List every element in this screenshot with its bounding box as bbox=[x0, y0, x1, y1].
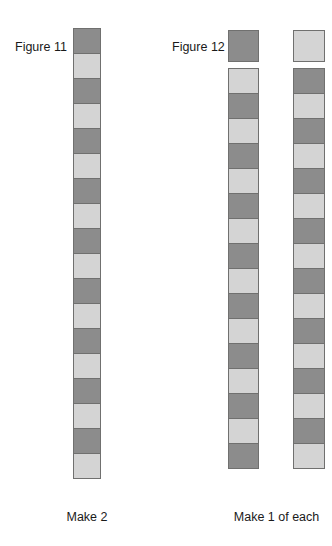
patch-square-dark bbox=[293, 68, 325, 94]
patch-square-light bbox=[73, 303, 101, 329]
patch-square-light bbox=[293, 93, 325, 119]
figure-12-strip-left bbox=[228, 68, 259, 469]
patch-square-light bbox=[293, 393, 325, 419]
patch-square-dark bbox=[293, 318, 325, 344]
patch-square-light bbox=[73, 203, 101, 229]
legend-swatch-dark bbox=[228, 30, 259, 62]
patch-square-light bbox=[73, 53, 101, 79]
patch-square-light bbox=[293, 343, 325, 369]
patch-square-light bbox=[228, 368, 259, 394]
figure-11-strip bbox=[73, 28, 101, 479]
patch-square-light bbox=[73, 403, 101, 429]
patch-square-light bbox=[228, 218, 259, 244]
patch-square-dark bbox=[73, 178, 101, 204]
patch-square-light bbox=[73, 353, 101, 379]
patch-square-dark bbox=[73, 228, 101, 254]
patch-square-dark bbox=[73, 278, 101, 304]
patch-square-dark bbox=[293, 218, 325, 244]
patch-square-dark bbox=[73, 128, 101, 154]
patch-square-dark bbox=[293, 418, 325, 444]
patch-square-light bbox=[73, 253, 101, 279]
patch-square-dark bbox=[228, 143, 259, 169]
patch-square-dark bbox=[73, 28, 101, 54]
patch-square-dark bbox=[228, 443, 259, 469]
patch-square-light bbox=[228, 68, 259, 94]
patch-square-dark bbox=[228, 243, 259, 269]
figure-12-label: Figure 12 bbox=[172, 41, 225, 54]
patch-square-light bbox=[228, 268, 259, 294]
patch-square-dark bbox=[228, 293, 259, 319]
patch-square-dark bbox=[293, 168, 325, 194]
patch-square-light bbox=[293, 243, 325, 269]
patch-square-dark bbox=[73, 378, 101, 404]
figure-11-label: Figure 11 bbox=[15, 41, 67, 54]
patch-square-light bbox=[73, 453, 101, 479]
patch-square-dark bbox=[293, 268, 325, 294]
patch-square-light bbox=[293, 143, 325, 169]
figure-12-caption: Make 1 of each bbox=[216, 511, 332, 524]
patch-square-light bbox=[293, 443, 325, 469]
patch-square-dark bbox=[73, 78, 101, 104]
patch-square-dark bbox=[73, 328, 101, 354]
patch-square-light bbox=[228, 168, 259, 194]
quilt-diagram-canvas: Figure 11 Make 2 Figure 12 Make 1 of eac… bbox=[0, 0, 332, 546]
figure-11-caption: Make 2 bbox=[40, 511, 134, 524]
patch-square-light bbox=[73, 103, 101, 129]
patch-square-light bbox=[228, 318, 259, 344]
patch-square-dark bbox=[73, 428, 101, 454]
patch-square-light bbox=[293, 293, 325, 319]
patch-square-dark bbox=[228, 343, 259, 369]
patch-square-light bbox=[73, 153, 101, 179]
patch-square-dark bbox=[228, 393, 259, 419]
figure-12-strip-right bbox=[293, 68, 325, 469]
patch-square-dark bbox=[228, 93, 259, 119]
patch-square-light bbox=[228, 418, 259, 444]
legend-swatch-light bbox=[293, 30, 325, 62]
patch-square-dark bbox=[228, 193, 259, 219]
patch-square-light bbox=[228, 118, 259, 144]
patch-square-dark bbox=[293, 118, 325, 144]
patch-square-dark bbox=[293, 368, 325, 394]
patch-square-light bbox=[293, 193, 325, 219]
